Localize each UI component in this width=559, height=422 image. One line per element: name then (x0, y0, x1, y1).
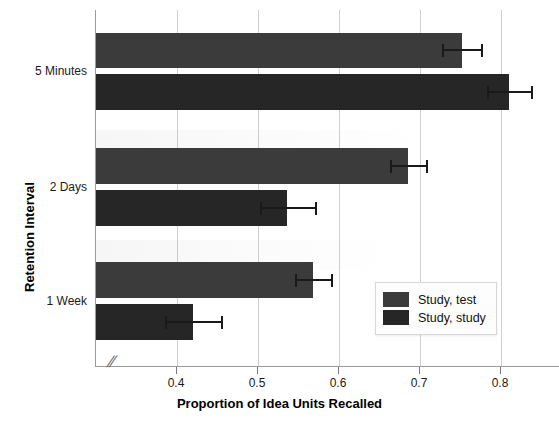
errorbar-cap-high-2days-study-study (315, 202, 317, 215)
bar-5minutes-study-study (96, 74, 509, 110)
x-tick-label-0.5: 0.5 (233, 376, 281, 390)
bar-1week-study-test (96, 262, 313, 298)
x-tick-label-0.7: 0.7 (395, 376, 443, 390)
errorbar-cap-high-1week-study-test (331, 274, 333, 287)
errorbar-cap-high-2days-study-test (426, 160, 428, 173)
bar-chart-figure: Retention Interval 5 Minutes 2 Days 1 We… (0, 0, 559, 422)
bar-2days-study-test (96, 148, 408, 184)
y-tick-label-2-days: 2 Days (5, 180, 87, 194)
errorbar-line-5minutes-study-test (442, 49, 481, 51)
errorbar-line-1week-study-test (295, 279, 331, 281)
x-tick-label-0.8: 0.8 (476, 376, 524, 390)
gridline-0.8 (501, 10, 502, 366)
errorbar-cap-high-5minutes-study-test (481, 44, 483, 57)
legend-item-study-test: Study, test (383, 292, 486, 307)
y-tick-label-1-week: 1 Week (5, 294, 87, 308)
errorbar-line-1week-study-study (165, 321, 221, 323)
x-tick-0.4 (176, 367, 177, 374)
legend-item-study-study: Study, study (383, 310, 486, 325)
legend-label-study-test: Study, test (418, 293, 476, 307)
legend-label-study-study: Study, study (418, 311, 486, 325)
errorbar-line-5minutes-study-study (487, 91, 531, 93)
errorbar-cap-low-1week-study-study (165, 316, 167, 329)
bar-5minutes-study-test (96, 33, 462, 68)
y-tick-label-5-minutes: 5 Minutes (5, 64, 87, 78)
errorbar-cap-low-5minutes-study-study (487, 86, 489, 99)
errorbar-cap-low-2days-study-test (390, 160, 392, 173)
plot-area: Study, test Study, study (95, 10, 559, 367)
x-axis-title: Proportion of Idea Units Recalled (0, 396, 559, 411)
x-tick-0.8 (500, 367, 501, 374)
y-axis-title: Retention Interval (22, 182, 37, 292)
x-tick-label-0.4: 0.4 (152, 376, 200, 390)
legend-swatch-icon-study-study (383, 310, 409, 325)
errorbar-cap-high-1week-study-study (221, 316, 223, 329)
x-tick-label-0.6: 0.6 (314, 376, 362, 390)
bar-2days-study-study (96, 190, 287, 226)
errorbar-line-2days-study-study (260, 207, 315, 209)
errorbar-cap-low-5minutes-study-test (442, 44, 444, 57)
errorbar-cap-high-5minutes-study-study (531, 86, 533, 99)
x-tick-0.5 (257, 367, 258, 374)
errorbar-cap-low-2days-study-study (260, 202, 262, 215)
errorbar-cap-low-1week-study-test (295, 274, 297, 287)
x-tick-0.6 (338, 367, 339, 374)
x-tick-0.7 (419, 367, 420, 374)
legend-swatch-icon-study-test (383, 292, 409, 307)
errorbar-line-2days-study-test (390, 165, 426, 167)
legend: Study, test Study, study (375, 282, 497, 335)
